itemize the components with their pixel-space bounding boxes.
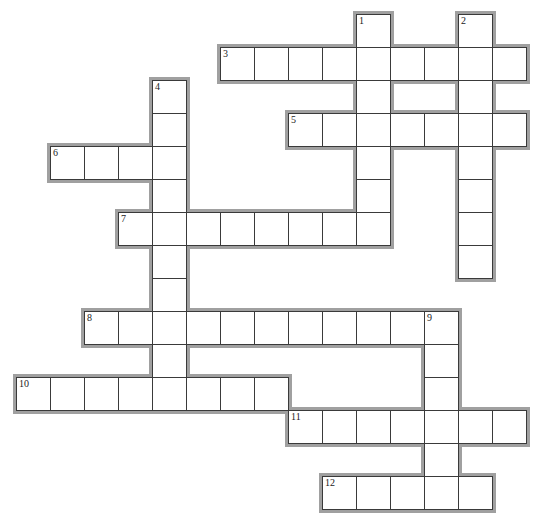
cell-letter-input[interactable] (51, 378, 84, 410)
crossword-cell[interactable] (152, 344, 187, 378)
crossword-cell[interactable] (424, 344, 459, 378)
crossword-cell[interactable] (458, 410, 493, 444)
crossword-cell[interactable] (356, 179, 391, 213)
cell-letter-input[interactable] (289, 114, 322, 146)
crossword-cell[interactable] (152, 278, 187, 312)
cell-letter-input[interactable] (221, 378, 254, 410)
crossword-cell[interactable] (458, 245, 493, 279)
cell-letter-input[interactable] (85, 378, 118, 410)
cell-letter-input[interactable] (357, 477, 390, 509)
cell-letter-input[interactable] (153, 213, 186, 245)
crossword-cell[interactable] (458, 47, 493, 81)
crossword-cell[interactable]: 4 (152, 80, 187, 114)
cell-letter-input[interactable] (391, 411, 424, 443)
crossword-cell[interactable] (118, 146, 153, 180)
cell-letter-input[interactable] (425, 114, 458, 146)
cell-letter-input[interactable] (323, 477, 356, 509)
crossword-cell[interactable] (390, 311, 425, 345)
crossword-cell[interactable] (356, 410, 391, 444)
crossword-cell[interactable]: 12 (322, 476, 357, 510)
cell-letter-input[interactable] (493, 411, 526, 443)
cell-letter-input[interactable] (289, 411, 322, 443)
crossword-cell[interactable] (152, 146, 187, 180)
cell-letter-input[interactable] (425, 477, 458, 509)
cell-letter-input[interactable] (357, 114, 390, 146)
crossword-cell[interactable] (254, 212, 289, 246)
crossword-cell[interactable] (152, 113, 187, 147)
crossword-cell[interactable] (458, 146, 493, 180)
crossword-cell[interactable] (424, 377, 459, 411)
cell-letter-input[interactable] (119, 147, 152, 179)
crossword-cell[interactable] (390, 476, 425, 510)
crossword-cell[interactable] (118, 311, 153, 345)
cell-letter-input[interactable] (459, 48, 492, 80)
crossword-cell[interactable] (458, 179, 493, 213)
cell-letter-input[interactable] (391, 312, 424, 344)
crossword-cell[interactable] (322, 212, 357, 246)
cell-letter-input[interactable] (153, 378, 186, 410)
cell-letter-input[interactable] (425, 411, 458, 443)
cell-letter-input[interactable] (357, 180, 390, 212)
cell-letter-input[interactable] (425, 444, 458, 476)
cell-letter-input[interactable] (323, 213, 356, 245)
crossword-cell[interactable] (424, 410, 459, 444)
crossword-cell[interactable] (492, 113, 527, 147)
crossword-cell[interactable] (356, 311, 391, 345)
crossword-cell[interactable] (288, 311, 323, 345)
crossword-cell[interactable]: 10 (16, 377, 51, 411)
cell-letter-input[interactable] (187, 213, 220, 245)
cell-letter-input[interactable] (357, 411, 390, 443)
crossword-cell[interactable] (390, 410, 425, 444)
cell-letter-input[interactable] (357, 81, 390, 113)
crossword-cell[interactable] (390, 113, 425, 147)
cell-letter-input[interactable] (187, 312, 220, 344)
cell-letter-input[interactable] (493, 114, 526, 146)
crossword-cell[interactable] (458, 476, 493, 510)
cell-letter-input[interactable] (459, 114, 492, 146)
cell-letter-input[interactable] (17, 378, 50, 410)
crossword-cell[interactable] (424, 476, 459, 510)
cell-letter-input[interactable] (289, 312, 322, 344)
crossword-cell[interactable]: 5 (288, 113, 323, 147)
cell-letter-input[interactable] (153, 81, 186, 113)
cell-letter-input[interactable] (51, 147, 84, 179)
cell-letter-input[interactable] (459, 180, 492, 212)
cell-letter-input[interactable] (153, 312, 186, 344)
cell-letter-input[interactable] (119, 213, 152, 245)
cell-letter-input[interactable] (459, 15, 492, 47)
crossword-cell[interactable] (84, 146, 119, 180)
crossword-cell[interactable]: 2 (458, 14, 493, 48)
cell-letter-input[interactable] (255, 48, 288, 80)
cell-letter-input[interactable] (255, 312, 288, 344)
crossword-cell[interactable] (458, 80, 493, 114)
cell-letter-input[interactable] (153, 345, 186, 377)
crossword-cell[interactable]: 7 (118, 212, 153, 246)
crossword-cell[interactable] (322, 311, 357, 345)
cell-letter-input[interactable] (153, 147, 186, 179)
cell-letter-input[interactable] (425, 312, 458, 344)
cell-letter-input[interactable] (425, 345, 458, 377)
cell-letter-input[interactable] (153, 246, 186, 278)
crossword-cell[interactable] (492, 410, 527, 444)
cell-letter-input[interactable] (323, 114, 356, 146)
crossword-cell[interactable] (186, 311, 221, 345)
crossword-cell[interactable] (220, 212, 255, 246)
crossword-cell[interactable] (152, 311, 187, 345)
crossword-cell[interactable] (356, 47, 391, 81)
cell-letter-input[interactable] (255, 378, 288, 410)
cell-letter-input[interactable] (391, 114, 424, 146)
cell-letter-input[interactable] (357, 147, 390, 179)
cell-letter-input[interactable] (323, 312, 356, 344)
cell-letter-input[interactable] (153, 180, 186, 212)
cell-letter-input[interactable] (391, 477, 424, 509)
crossword-cell[interactable] (288, 212, 323, 246)
crossword-cell[interactable] (288, 47, 323, 81)
crossword-cell[interactable] (84, 377, 119, 411)
crossword-cell[interactable] (220, 377, 255, 411)
cell-letter-input[interactable] (459, 246, 492, 278)
cell-letter-input[interactable] (187, 378, 220, 410)
crossword-cell[interactable] (254, 47, 289, 81)
cell-letter-input[interactable] (459, 81, 492, 113)
crossword-cell[interactable] (492, 47, 527, 81)
crossword-cell[interactable]: 1 (356, 14, 391, 48)
